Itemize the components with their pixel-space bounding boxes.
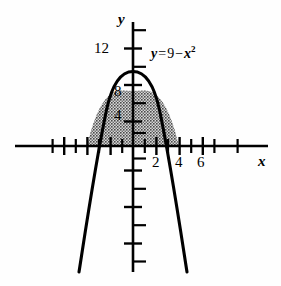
x-axis-label: x — [258, 154, 266, 169]
equation-x: x — [184, 46, 191, 61]
x-tick-label-4: 4 — [175, 155, 183, 170]
curve-equation-label: y=9−x2 — [151, 45, 196, 61]
y-axis-label: y — [118, 12, 125, 27]
y-tick-label-8: 8 — [114, 84, 122, 99]
x-tick-label-2: 2 — [152, 155, 160, 170]
equation-exponent: 2 — [191, 44, 196, 54]
equation-minus: − — [174, 46, 184, 61]
y-tick-label-12: 12 — [94, 41, 109, 56]
x-tick-label-6: 6 — [197, 155, 205, 170]
y-tick-label-4: 4 — [114, 108, 122, 123]
shaded-region — [80, 80, 190, 152]
equation-equals: = — [157, 46, 167, 61]
parabola-figure: y x 12 8 4 2 4 6 y=9−x2 — [0, 0, 281, 286]
plot-canvas — [0, 0, 281, 286]
